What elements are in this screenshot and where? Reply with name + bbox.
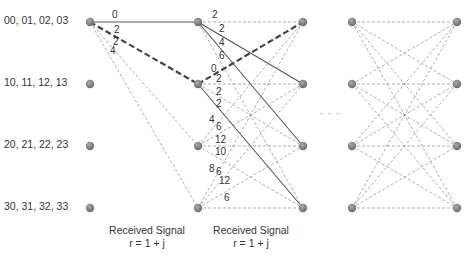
- metric-s2-2-2: 12: [215, 134, 226, 145]
- caption-stage2: Received Signal r = 1 + j: [196, 224, 306, 250]
- node-c2-r2: [299, 142, 307, 150]
- metric-s2-0-0: 2: [212, 9, 218, 20]
- metric-s1-0: 0: [112, 9, 118, 20]
- metric-s2-3-0: 8: [209, 163, 215, 174]
- metric-s1-3: 4: [110, 45, 116, 56]
- node-c1-r0: [194, 18, 202, 26]
- node-c0-r3: [86, 204, 94, 212]
- edge-sn-3-2: [352, 146, 457, 208]
- caption-stage2-line1: Received Signal: [196, 224, 306, 237]
- metric-s2-3-3: 6: [224, 192, 230, 203]
- metric-s2-1-1: 2: [216, 73, 222, 84]
- node-c4-r2: [453, 142, 461, 150]
- node-c3-r1: [348, 80, 356, 88]
- metric-s2-1-2: 2: [216, 86, 222, 97]
- node-c3-r2: [348, 142, 356, 150]
- node-c2-r1: [299, 80, 307, 88]
- node-c2-r3: [299, 204, 307, 212]
- metric-s2-0-3: 6: [219, 50, 225, 61]
- metric-s1-1: 2: [114, 24, 120, 35]
- node-c0-r0: [86, 18, 94, 26]
- metric-s2-0-1: 2: [219, 23, 225, 34]
- caption-stage1-line2: r = 1 + j: [92, 237, 202, 250]
- state-label-0: 00, 01, 02, 03: [4, 14, 68, 26]
- node-c4-r0: [453, 18, 461, 26]
- node-c1-r2: [194, 142, 202, 150]
- node-c4-r1: [453, 80, 461, 88]
- node-c0-r2: [86, 142, 94, 150]
- edges: [90, 22, 457, 208]
- state-label-3: 30, 31, 32, 33: [4, 200, 68, 212]
- metric-s2-3-2: 12: [219, 175, 230, 186]
- state-label-2: 20, 21, 22, 23: [4, 138, 68, 150]
- metric-s2-1-3: 2: [216, 98, 222, 109]
- edge-s1-0-1: [90, 22, 198, 84]
- state-label-1: 10, 11, 12, 13: [4, 76, 67, 88]
- caption-stage1-line1: Received Signal: [92, 224, 202, 237]
- metric-s2-2-1: 6: [216, 121, 222, 132]
- node-c1-r3: [194, 204, 202, 212]
- node-c4-r3: [453, 204, 461, 212]
- node-c1-r1: [194, 80, 202, 88]
- node-c2-r0: [299, 18, 307, 26]
- edge-s1-0-3: [90, 22, 198, 208]
- metric-s2-2-0: 4: [209, 114, 215, 125]
- node-c0-r1: [86, 80, 94, 88]
- trellis-graph: [0, 0, 472, 261]
- node-c3-r0: [348, 18, 356, 26]
- caption-stage1: Received Signal r = 1 + j: [92, 224, 202, 250]
- ellipsis: · · ·: [320, 108, 341, 119]
- metric-s2-2-3: 10: [215, 146, 226, 157]
- metric-s2-0-2: 4: [219, 37, 225, 48]
- node-c3-r3: [348, 204, 356, 212]
- edge-s2-3-2: [198, 146, 303, 208]
- edge-s1-0-2: [90, 22, 198, 146]
- caption-stage2-line2: r = 1 + j: [196, 237, 306, 250]
- trellis-diagram: 00, 01, 02, 03 10, 11, 12, 13 20, 21, 22…: [0, 0, 472, 261]
